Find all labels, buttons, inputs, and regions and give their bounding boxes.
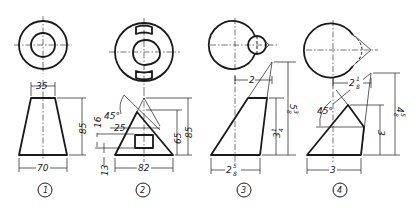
dim-cut-height: 16 — [93, 116, 103, 128]
figure-3-dimensions: 2 3 1 4 5 3 8 2 5 8 — [211, 62, 300, 178]
dim-apex-offset-num: 1 — [356, 75, 360, 82]
dim-base-width-num: 5 — [233, 162, 237, 169]
figure-2-number: 2 — [140, 186, 145, 195]
dim-angle: 45° — [317, 106, 333, 116]
figure-3-top-view — [209, 18, 278, 72]
dim-bottom-width: 70 — [37, 163, 49, 173]
dim-inner-height: 65 — [173, 132, 183, 144]
dim-total-height-num: 3 — [293, 110, 300, 114]
figure-4-label: 4 — [333, 183, 347, 197]
figure-1-label: 1 — [38, 183, 52, 197]
figure-4-top-view — [304, 20, 378, 80]
figure-3-number: 3 — [241, 186, 246, 195]
figure-1-dimensions: 35 85 70 — [19, 81, 88, 173]
dim-apex-offset-whole: 2 — [349, 78, 355, 88]
dim-frustum-height-den: 4 — [277, 128, 284, 132]
figure-1-front-view — [19, 80, 67, 160]
drawing-canvas: 35 85 70 1 — [0, 0, 416, 210]
dim-hole-width: 25 — [114, 123, 126, 133]
figure-1-top-view — [14, 16, 72, 74]
dim-total-height: 85 — [184, 126, 194, 138]
dim-base-offset: 13 — [100, 164, 110, 176]
figure-4-number: 4 — [337, 186, 342, 195]
dim-base-width: 82 — [138, 163, 150, 173]
figure-2-top-view — [109, 18, 180, 90]
dim-angle: 45° — [104, 111, 120, 121]
dim-height: 85 — [78, 122, 88, 134]
figure-1: 35 85 70 1 — [14, 16, 88, 197]
dim-total-height-den: 8 — [286, 110, 293, 114]
dim-total-height-den: 8 — [393, 113, 400, 117]
figure-3-label: 3 — [237, 183, 251, 197]
dim-apex-offset-den: 8 — [356, 83, 360, 90]
figure-3-front-view — [211, 62, 272, 162]
figure-1-number: 1 — [43, 186, 48, 195]
dim-base-width: 3 — [330, 165, 336, 175]
dim-base-width-whole: 2 — [226, 165, 232, 175]
dim-cut-height: 3 — [376, 130, 386, 136]
dim-top-offset: 2 — [249, 75, 255, 85]
dim-frustum-height-num: 1 — [270, 128, 277, 132]
dim-top-width: 35 — [36, 81, 48, 91]
dim-total-height-num: 5 — [400, 113, 407, 117]
dim-base-width-den: 8 — [233, 170, 237, 177]
figure-2: 45° 16 25 13 65 85 — [93, 18, 194, 197]
figure-4: 2 1 8 45° 3 4 5 8 3 — [304, 20, 407, 197]
figure-2-label: 2 — [136, 183, 150, 197]
figure-3: 2 3 1 4 5 3 8 2 5 8 — [209, 18, 300, 197]
figure-4-dimensions: 2 1 8 45° 3 4 5 8 3 — [307, 73, 407, 175]
